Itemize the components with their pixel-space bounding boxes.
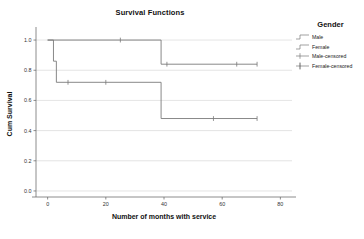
y-tick-label: 1.0 bbox=[24, 37, 32, 43]
series-line-male bbox=[48, 40, 257, 64]
legend-label-male: Male bbox=[312, 33, 323, 41]
y-tick-label: 0.6 bbox=[24, 97, 32, 103]
y-axis-label: Cum Survival bbox=[6, 92, 13, 137]
legend-key-censor-icon bbox=[295, 62, 310, 70]
y-tick-label: 0.4 bbox=[24, 128, 32, 134]
y-tick-label: 0.0 bbox=[24, 188, 32, 194]
x-tick-label: 80 bbox=[277, 201, 283, 207]
legend-item-male-censored: Male-censored bbox=[295, 52, 364, 61]
legend-key-step-icon bbox=[295, 43, 310, 51]
legend-key-censor-icon bbox=[295, 52, 310, 60]
legend-item-male: Male bbox=[295, 33, 364, 42]
legend-title: Gender bbox=[297, 20, 364, 29]
legend-key-step-icon bbox=[295, 33, 310, 41]
legend: Gender Male Female Male-censored bbox=[295, 20, 364, 71]
x-tick-label: 20 bbox=[103, 201, 109, 207]
x-tick-label: 40 bbox=[161, 201, 167, 207]
x-tick-label: 0 bbox=[46, 201, 49, 207]
legend-item-female-censored: Female-censored bbox=[295, 62, 364, 71]
legend-label-male-censored: Male-censored bbox=[312, 52, 346, 60]
legend-label-female: Female bbox=[312, 43, 329, 51]
y-tick-label: 0.8 bbox=[24, 67, 32, 73]
legend-item-female: Female bbox=[295, 43, 364, 52]
legend-label-female-censored: Female-censored bbox=[312, 62, 352, 70]
y-tick-label: 0.2 bbox=[24, 158, 32, 164]
x-tick-label: 60 bbox=[219, 201, 225, 207]
x-axis-label: Number of months with service bbox=[112, 213, 216, 220]
survival-chart-figure: Survival Functions 0.00.20.40.60.81.0020… bbox=[0, 0, 364, 239]
series-line-female bbox=[48, 40, 257, 118]
